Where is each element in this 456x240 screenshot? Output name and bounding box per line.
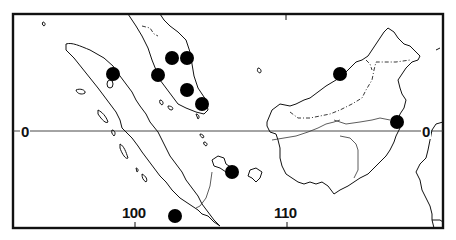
nias-island (98, 110, 108, 123)
island-small-3 (142, 174, 147, 182)
brunei-border (366, 60, 372, 70)
equator-label-right: 0 (421, 124, 431, 139)
map-canvas (0, 0, 456, 240)
riau-island-2 (168, 106, 173, 110)
riau-island-1 (160, 100, 163, 105)
small-island-nw (42, 22, 45, 26)
marker-4 (151, 68, 165, 82)
equator-label-left: 0 (20, 124, 30, 139)
specimen-markers (106, 51, 404, 223)
marker-2 (165, 51, 179, 65)
borneo-province-line-2 (340, 136, 358, 178)
marker-6 (195, 97, 209, 111)
lingga-island-2 (200, 134, 204, 138)
belitung-island (248, 168, 262, 182)
marker-1 (106, 67, 120, 81)
small-island-ne (436, 48, 440, 50)
borneo-province-line-3 (334, 118, 390, 124)
sumatra-river (196, 172, 212, 208)
marker-3 (180, 51, 194, 65)
map-frame (13, 14, 443, 228)
marker-8 (390, 115, 404, 129)
distribution-map: 0 0 100 110 (0, 0, 456, 240)
sulawesi-bay (432, 220, 443, 222)
riau-island-3 (196, 114, 199, 119)
lingga-island (204, 142, 207, 146)
marker-10 (168, 209, 182, 223)
simeulue-island (76, 89, 85, 94)
thai-malaysia-border (142, 26, 158, 36)
lake-toba (107, 80, 113, 88)
marker-5 (180, 83, 194, 97)
island-small-2 (136, 168, 138, 172)
longitude-label-100: 100 (122, 205, 146, 220)
malay-peninsula-outline (128, 14, 208, 114)
marker-9 (225, 165, 239, 179)
borneo-province-line-1 (272, 120, 340, 140)
small-island-natuna (257, 68, 261, 73)
siberut-island (120, 144, 128, 158)
longitude-label-110: 110 (274, 205, 297, 220)
borneo-outline (267, 28, 420, 194)
sumatra-outline (66, 43, 220, 226)
marker-7 (333, 67, 347, 81)
